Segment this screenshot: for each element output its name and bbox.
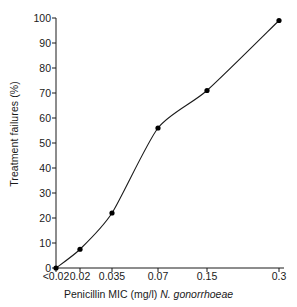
data-point: 0.02: 7.5% [77, 247, 82, 252]
x-tick-label: 0.07 [148, 271, 168, 282]
x-tick-label: 0.02 [70, 271, 90, 282]
x-axis-title: Penicillin MIC (mg/l) N. gonorrhoeae [0, 288, 297, 300]
data-point-markers: <0.02: 0%0.02: 7.5%0.035: 22%0.07: 56%0.… [53, 18, 281, 271]
x-tick-label: 0.035 [99, 271, 125, 282]
data-point: 0.15: 71% [204, 88, 209, 93]
x-axis-tick-labels: <0.020.020.0350.070.150.3 [0, 271, 297, 287]
y-axis-ticks [52, 18, 56, 268]
chart-figure: Treatment failures (%) 01020304050607080… [0, 0, 297, 307]
x-tick-label: 0.15 [197, 271, 217, 282]
data-point: 0.035: 22% [109, 210, 114, 215]
x-tick-label: 0.3 [272, 271, 287, 282]
x-axis-title-prefix: Penicillin MIC (mg/l) [64, 288, 160, 300]
plot-area: <0.02: 0%0.02: 7.5%0.035: 22%0.07: 56%0.… [0, 0, 297, 307]
axis-lines [56, 18, 284, 268]
data-line [56, 21, 279, 269]
x-axis-title-species: N. gonorrhoeae [160, 288, 233, 300]
data-point: 0.3: 99% [276, 18, 281, 23]
data-point: 0.07: 56% [155, 125, 160, 130]
x-tick-label: <0.02 [43, 271, 70, 282]
